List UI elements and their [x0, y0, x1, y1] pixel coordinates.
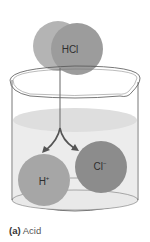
- figure-caption: (a) Acid: [9, 225, 41, 236]
- beaker-diagram: [0, 0, 150, 242]
- caption-tag: (a): [9, 225, 21, 236]
- cl-ion-label: Cl−: [94, 161, 107, 172]
- caption-text: Acid: [23, 225, 41, 236]
- h-ion-charge: +: [46, 175, 50, 181]
- cl-ion-charge: −: [103, 160, 107, 166]
- liquid-surface: [13, 108, 137, 132]
- hcl-label: HCl: [62, 44, 79, 55]
- h-ion-label: H+: [39, 176, 50, 187]
